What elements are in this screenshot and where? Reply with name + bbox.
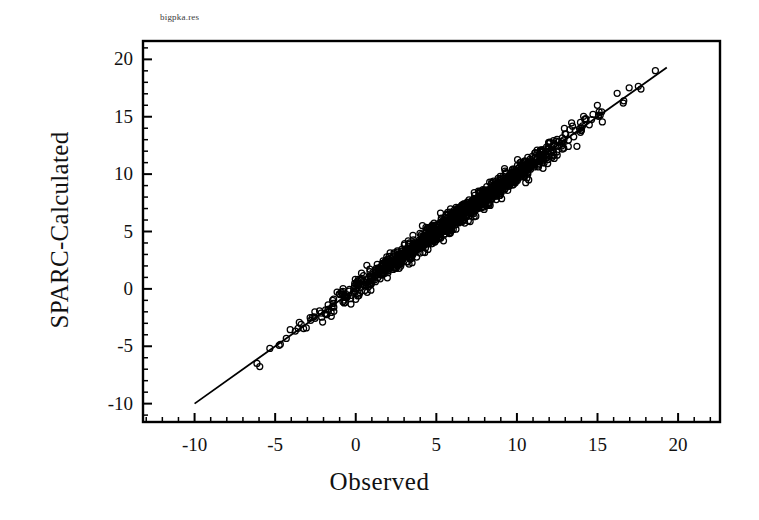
scatter-plot bbox=[0, 0, 759, 520]
figure-canvas: bigpka.res -10-505101520 -10-505101520 O… bbox=[0, 0, 759, 520]
data-points bbox=[254, 68, 658, 370]
y-tick-label: 5 bbox=[85, 221, 133, 243]
y-tick-label: 10 bbox=[85, 163, 133, 185]
x-tick-label: -10 bbox=[182, 434, 207, 456]
x-tick-label: 15 bbox=[588, 434, 607, 456]
x-tick-label: 20 bbox=[669, 434, 688, 456]
y-tick-label: -10 bbox=[85, 393, 133, 415]
x-tick-label: -5 bbox=[267, 434, 283, 456]
identity-fit-line bbox=[195, 67, 667, 403]
y-axis-title: SPARC-Calculated bbox=[46, 132, 74, 329]
y-tick-label: 0 bbox=[85, 278, 133, 300]
y-tick-label: 20 bbox=[85, 48, 133, 70]
x-axis-title: Observed bbox=[0, 468, 759, 496]
x-tick-label: 10 bbox=[507, 434, 526, 456]
y-tick-label: 15 bbox=[85, 106, 133, 128]
x-tick-label: 5 bbox=[432, 434, 442, 456]
x-tick-label: 0 bbox=[351, 434, 361, 456]
y-tick-label: -5 bbox=[85, 335, 133, 357]
y-axis-title-wrapper: SPARC-Calculated bbox=[40, 100, 80, 360]
